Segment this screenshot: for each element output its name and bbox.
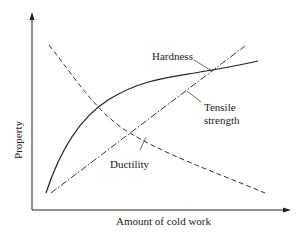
label-tensile-1: Tensile <box>204 101 236 113</box>
label-tensile-2: strength <box>204 114 240 126</box>
x-axis-label: Amount of cold work <box>116 215 212 227</box>
chart-svg: Hardness Tensile strength Ductility Amou… <box>0 0 304 236</box>
x-axis-arrow-icon <box>283 208 291 213</box>
label-ductility: Ductility <box>110 158 150 170</box>
series-tensile-strength <box>46 61 258 193</box>
chart: Hardness Tensile strength Ductility Amou… <box>0 0 304 236</box>
hardness-leader <box>194 60 212 71</box>
y-axis-arrow-icon <box>30 12 35 20</box>
tensile-leader <box>187 91 201 102</box>
y-axis-label: Property <box>12 121 24 159</box>
label-hardness: Hardness <box>152 50 193 62</box>
